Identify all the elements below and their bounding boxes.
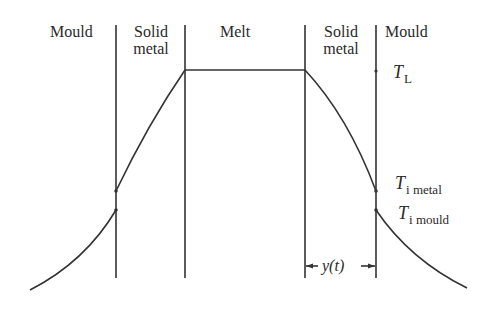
label-solid-right-line2: metal <box>308 40 374 57</box>
point-ti-mould-right <box>374 208 378 212</box>
ti-metal-symbol: T <box>395 173 405 193</box>
temperature-profile-diagram <box>0 0 491 327</box>
solid-metal-curve-right <box>305 70 376 191</box>
label-solid-left-line1: Solid <box>120 23 182 40</box>
arrowhead-left <box>306 264 313 269</box>
solid-metal-curve-left <box>116 70 185 191</box>
point-ti-metal-right <box>374 189 378 193</box>
point-ti-mould-left <box>114 208 118 212</box>
label-tl: TL <box>393 64 412 82</box>
arrowhead-right <box>368 264 375 269</box>
ti-mould-subscript: i mould <box>409 212 449 227</box>
label-ti-mould: Ti mould <box>398 205 449 223</box>
ti-metal-subscript: i metal <box>406 182 442 197</box>
tick-tl <box>374 69 377 72</box>
tl-subscript: L <box>404 71 412 86</box>
mould-curve-left <box>30 210 116 290</box>
label-ti-metal: Ti metal <box>395 175 442 193</box>
label-solid-metal-left: Solid metal <box>120 23 182 57</box>
ti-mould-symbol: T <box>398 203 408 223</box>
point-ti-metal-left <box>114 189 118 193</box>
label-solid-left-line2: metal <box>120 40 182 57</box>
label-mould-right: Mould <box>385 23 428 40</box>
label-shell-thickness: y(t) <box>322 257 344 274</box>
label-mould-left: Mould <box>50 23 93 40</box>
label-solid-right-line1: Solid <box>308 23 374 40</box>
label-melt: Melt <box>220 23 250 40</box>
label-solid-metal-right: Solid metal <box>308 23 374 57</box>
tl-symbol: T <box>393 62 403 82</box>
